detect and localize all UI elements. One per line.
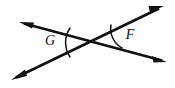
angle-label-f: F: [125, 27, 135, 42]
angle-label-g: G: [45, 33, 55, 48]
diagram-canvas: G F: [0, 0, 175, 88]
angle-diagram-figure: G F: [0, 0, 175, 88]
